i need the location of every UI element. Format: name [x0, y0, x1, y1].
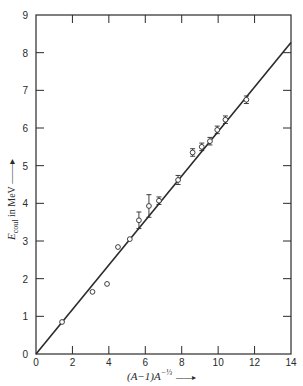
- y-axis-label-rest: in MeV ——▸: [6, 159, 17, 220]
- y-tick-label: 9: [22, 10, 28, 21]
- x-tick-label: 4: [106, 357, 112, 368]
- x-tick-label: 0: [33, 357, 39, 368]
- y-tick-label: 1: [22, 311, 28, 322]
- x-tick-label: 12: [249, 357, 261, 368]
- y-tick-label: 5: [22, 161, 28, 172]
- x-tick-label: 2: [70, 357, 76, 368]
- y-tick-label: 0: [22, 349, 28, 360]
- open-circle-marker: [60, 320, 65, 325]
- x-tick-label: 8: [179, 357, 185, 368]
- y-tick-label: 8: [22, 48, 28, 59]
- open-circle-marker: [208, 139, 213, 144]
- linear-fit-line: [36, 42, 291, 354]
- y-tick-label: 7: [22, 85, 28, 96]
- data-point: [223, 116, 228, 124]
- open-circle-marker: [116, 245, 121, 250]
- x-axis-label-exponent: −⅓: [161, 368, 172, 377]
- fit-line: [36, 42, 291, 354]
- x-tick-label: 14: [285, 357, 297, 368]
- x-axis-arrow: ——▸: [175, 373, 196, 382]
- open-circle-marker: [157, 198, 162, 203]
- y-tick-label: 4: [22, 198, 28, 209]
- open-circle-marker: [105, 282, 110, 287]
- data-point: [105, 282, 110, 287]
- x-axis-label-main: (A−1)A: [127, 370, 161, 383]
- x-tick-label: 6: [143, 357, 149, 368]
- coulomb-energy-chart: 024681012140123456789 (A−1)A−⅓——▸ Ecoul …: [0, 0, 303, 386]
- open-circle-marker: [199, 144, 204, 149]
- open-circle-marker: [137, 218, 142, 223]
- x-tick-label: 10: [213, 357, 225, 368]
- open-circle-marker: [223, 117, 228, 122]
- data-point: [244, 96, 249, 104]
- y-axis-label: Ecoul in MeV ——▸: [5, 159, 20, 241]
- y-axis-label-sub: coul: [11, 219, 20, 234]
- y-tick-label: 2: [22, 274, 28, 285]
- y-tick-label: 6: [22, 123, 28, 134]
- open-circle-marker: [244, 97, 249, 102]
- data-point: [127, 237, 132, 242]
- data-point: [215, 126, 220, 134]
- axis-tick-labels: 024681012140123456789: [22, 10, 297, 368]
- plot-border: [36, 15, 291, 354]
- open-circle-marker: [147, 204, 152, 209]
- open-circle-marker: [90, 289, 95, 294]
- data-point: [90, 289, 95, 294]
- open-circle-marker: [190, 150, 195, 155]
- data-point: [116, 245, 121, 250]
- x-axis-label: (A−1)A−⅓——▸: [127, 368, 196, 383]
- open-circle-marker: [176, 178, 181, 183]
- open-circle-marker: [127, 237, 132, 242]
- plot-frame: [36, 15, 291, 354]
- open-circle-marker: [215, 127, 220, 132]
- data-point: [190, 149, 195, 157]
- data-point: [60, 320, 65, 325]
- axis-ticks: [36, 15, 291, 354]
- y-tick-label: 3: [22, 236, 28, 247]
- data-point: [156, 197, 161, 205]
